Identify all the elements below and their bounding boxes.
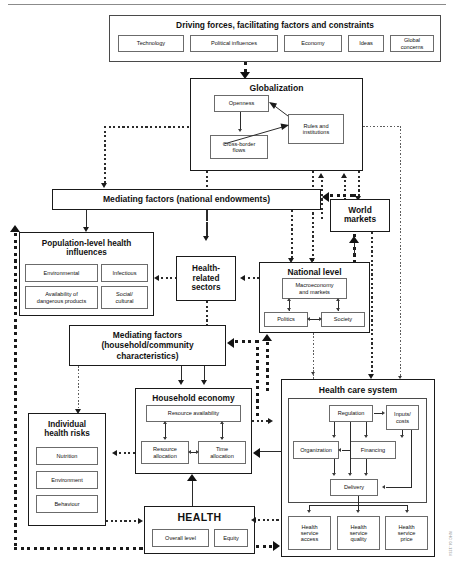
health-care-system-title: Health care system <box>282 386 434 395</box>
connector-hcs-outcome-quality-v <box>358 496 359 511</box>
arrowhead-he-to-individual-risks <box>112 450 117 456</box>
arrowhead-regulation-through-to-delivery <box>348 473 352 476</box>
connector-nationallevel-to-hcs <box>313 333 314 374</box>
health-related-sectors-box[interactable]: Health- related sectors <box>176 256 236 301</box>
population-health-social-cultural[interactable]: Social/ cultural <box>101 286 148 309</box>
arrowhead-feedback-to-globalization-b <box>341 173 347 178</box>
connector-regulation-to-financing <box>366 422 367 436</box>
arrowhead-organization-to-delivery <box>332 473 336 476</box>
driving-force-global-concerns[interactable]: Global concerns <box>390 35 434 52</box>
arrowhead-hcs-outcome-access <box>307 510 311 513</box>
hcs-outcome-health-service-access[interactable]: Health service access <box>288 516 331 550</box>
individual-risk-nutrition[interactable]: Nutrition <box>36 447 98 465</box>
connector-globalization-to-world-markets <box>358 171 360 199</box>
arrowhead-resalloc-to-avail <box>163 421 167 424</box>
arrowhead-globalization-to-mediating-national <box>101 183 107 188</box>
national-level-society[interactable]: Society <box>321 312 365 327</box>
connector-organization-to-delivery <box>334 459 335 474</box>
household-economy-resource-allocation[interactable]: Resource allocation <box>141 441 189 464</box>
arrowhead-into-world-markets <box>349 236 359 243</box>
arrowhead-society-to-politics <box>307 317 310 321</box>
population-health-environmental[interactable]: Environmental <box>25 264 98 282</box>
world-markets-title: World markets <box>331 206 389 224</box>
arrowhead-financing-to-organization <box>338 448 341 452</box>
mediating-national-title: Mediating factors (national endowments) <box>53 195 320 204</box>
arrowhead-avail-to-timealloc <box>220 437 224 440</box>
arrowhead-mediating-household-to-he-a <box>178 380 184 385</box>
hcs-regulation[interactable]: Regulation <box>329 405 373 422</box>
health-equity[interactable]: Equity <box>214 529 248 547</box>
household-economy-time-allocation[interactable]: Time allocation <box>198 441 246 464</box>
top-rule <box>8 4 446 5</box>
connector-healthsectors-to-pophealth <box>161 277 176 279</box>
national-level-macroeconomy[interactable]: Macroeconomy and markets <box>282 278 347 299</box>
arrowhead-health-feedback-to-pophealth <box>10 225 20 232</box>
diagram-canvas: Driving forces, facilitating factors and… <box>0 0 454 572</box>
connector-he-to-individual-risks <box>119 452 136 454</box>
arrowhead-society-to-macro <box>336 298 340 301</box>
connector-mediating-household-to-individual <box>78 366 79 411</box>
individual-risk-environment[interactable]: Environment <box>36 471 98 489</box>
household-economy-title: Household economy <box>136 394 251 403</box>
arrowhead-healthsectors-to-pophealth <box>154 275 159 281</box>
arrowhead-into-he-from-right <box>253 448 260 458</box>
arrowhead-politics-to-society <box>319 317 322 321</box>
arrowhead-regulation-to-financing <box>364 435 368 438</box>
arrowhead-macro-to-politics <box>287 308 291 311</box>
arrowhead-hcs-to-he <box>268 418 273 424</box>
arrowhead-feedback-into-national-level <box>262 334 272 341</box>
driving-force-economy[interactable]: Economy <box>284 35 342 52</box>
household-economy-resource-availability[interactable]: Resource availability <box>146 405 241 422</box>
connector-mediating-to-healthsectors <box>206 210 208 238</box>
hcs-inputs-costs[interactable]: Inputs/ costs <box>386 405 419 430</box>
arrowhead-hcs-to-health <box>251 517 256 523</box>
mediating-household-container: Mediating factors(household/communitycha… <box>69 325 226 366</box>
arrowhead-timealloc-to-resalloc <box>188 450 191 454</box>
population-health-infectious[interactable]: Infectious <box>101 264 148 282</box>
arrowhead-hcs-outcome-quality <box>356 510 360 513</box>
driving-force-political-influences[interactable]: Political influences <box>190 35 278 52</box>
connector-he-to-health <box>192 481 193 507</box>
health-overall-level[interactable]: Overall level <box>152 529 209 547</box>
connector-individual-risks-to-health <box>106 520 140 522</box>
arrowhead-regulation-to-organization <box>332 435 336 438</box>
connector-health-feedback-left-h <box>14 547 151 550</box>
driving-force-ideas[interactable]: Ideas <box>348 35 384 52</box>
arrowhead-feedback-into-mediating-national <box>322 192 329 202</box>
hcs-delivery[interactable]: Delivery <box>330 479 378 496</box>
national-level-politics[interactable]: Politics <box>264 312 308 327</box>
arrowhead-individual-risks-to-health <box>138 518 143 524</box>
connector-into-world-markets <box>354 243 355 255</box>
arrowhead-financing-to-delivery <box>364 473 368 476</box>
mediating-national-container: Mediating factors (national endowments) <box>52 189 321 210</box>
hcs-financing[interactable]: Financing <box>350 441 396 459</box>
connector-inputs-loop-v <box>411 430 412 487</box>
connector-regulation-to-organization <box>334 422 335 436</box>
hcs-outcome-health-service-quality[interactable]: Health service quality <box>337 516 380 550</box>
connector-globalization-left-rail <box>104 126 191 128</box>
connector-globalization-to-mediating-national <box>104 126 106 186</box>
population-health-dangerous-products[interactable]: Availability of dangerous products <box>25 286 98 309</box>
connector-world-markets-down <box>371 232 373 376</box>
connector-into-he-from-right <box>260 451 282 452</box>
connector-globalization-to-national-level <box>312 171 314 261</box>
health-title: HEALTH <box>145 512 254 523</box>
arrowhead-health-to-hcs <box>273 541 280 551</box>
arrowhead-regulation-to-inputs <box>382 411 385 415</box>
driving-force-technology[interactable]: Technology <box>118 35 184 52</box>
connector-top-into-hcs-left <box>313 374 314 379</box>
connector-financing-to-delivery <box>366 459 367 474</box>
connector-globalization-right-rail-v <box>400 126 401 378</box>
hcs-organization[interactable]: Organization <box>293 441 339 459</box>
health-related-sectors-title: Health- related sectors <box>191 264 220 292</box>
arrowhead-mediating-household-to-he-b <box>201 380 207 385</box>
arrowhead-timealloc-to-avail <box>220 421 224 424</box>
arrowhead-feedback-into-mediating-household <box>227 338 234 348</box>
hcs-outcome-health-service-price[interactable]: Health service price <box>385 516 428 550</box>
individual-risk-behaviour[interactable]: Behaviour <box>36 495 98 513</box>
national-level-title: National level <box>260 268 369 277</box>
arrowhead-nationallevel-to-healthsectors <box>240 275 245 281</box>
mediating-household-title: Mediating factors(household/communitycha… <box>101 330 193 360</box>
arrowhead-he-to-health <box>187 474 197 481</box>
arrowhead-hcs-outcome-price <box>405 510 409 513</box>
